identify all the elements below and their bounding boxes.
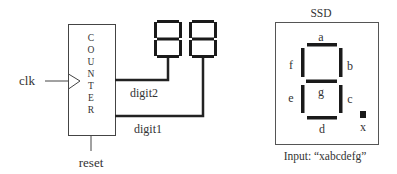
segment-e: [301, 85, 305, 113]
label-x: x: [360, 120, 366, 134]
counter-letter-o: O: [88, 45, 95, 55]
counter-letter-t: T: [88, 81, 94, 91]
label-f: f: [289, 58, 293, 72]
label-g: g: [318, 85, 324, 99]
counter-letter-u: U: [88, 57, 95, 67]
segment-c: [339, 85, 343, 113]
segment-x-dot: [360, 111, 366, 118]
label-e: e: [288, 91, 293, 105]
digit2-label: digit2: [130, 86, 158, 100]
ssd-title: SSD: [310, 7, 331, 19]
ssd-reference: SSD a b c d e f g x Input: “xabcdefg”: [276, 7, 379, 163]
reset-label: reset: [79, 155, 104, 170]
seven-segment-digit-1: [189, 20, 217, 58]
clk-label: clk: [19, 73, 35, 88]
counter-block: C O U N T E R: [69, 25, 116, 136]
label-b: b: [347, 59, 353, 73]
ssd-input-caption: Input: “xabcdefg”: [284, 150, 367, 163]
seven-segment-digit-2: [154, 20, 182, 58]
clk-input: clk: [19, 73, 68, 88]
counter-letter-n: N: [88, 69, 95, 79]
reset-input: reset: [79, 136, 104, 170]
digit1-wire: [115, 58, 203, 116]
counter-letter-c: C: [88, 33, 94, 43]
counter-label: C O U N T E R: [88, 33, 95, 115]
label-c: c: [347, 92, 352, 106]
label-a: a: [318, 30, 324, 44]
label-d: d: [319, 122, 325, 136]
digit1-bus: digit1: [115, 58, 203, 136]
digit1-label: digit1: [134, 122, 162, 136]
digit2-wire: [115, 58, 168, 80]
segment-d: [307, 116, 337, 120]
counter-letter-r: R: [88, 105, 95, 115]
segment-g: [306, 80, 337, 84]
counter-ssd-diagram: C O U N T E R clk reset digit2 digit1: [0, 0, 397, 174]
counter-letter-e: E: [88, 93, 94, 103]
digit2-bus: digit2: [115, 58, 168, 100]
segment-b: [339, 48, 343, 77]
segment-f: [301, 48, 305, 77]
